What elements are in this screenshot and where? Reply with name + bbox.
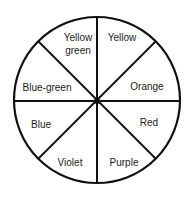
label-orange: Orange <box>130 81 163 93</box>
label-yellow: Yellow <box>108 32 137 44</box>
label-yellow-green: Yellow green <box>64 31 93 57</box>
label-blue-green: Blue-green <box>23 82 72 94</box>
label-blue: Blue <box>31 119 51 131</box>
label-red: Red <box>140 117 158 129</box>
label-violet: Violet <box>58 157 83 169</box>
wheel-center <box>94 98 100 104</box>
label-purple: Purple <box>110 157 139 169</box>
color-wheel-diagram <box>0 0 188 197</box>
